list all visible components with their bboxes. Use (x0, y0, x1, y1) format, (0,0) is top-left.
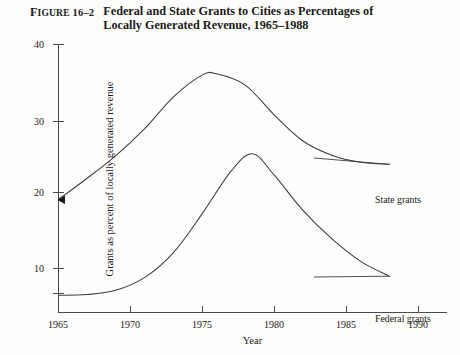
x-axis-title: Year (58, 335, 447, 346)
series-label-federal: Federal grants (375, 313, 431, 324)
state-label-leader-line (314, 158, 389, 164)
figure-number-label: FIGURE 16–2 (30, 4, 94, 20)
y-tick-label-40: 40 (34, 39, 44, 50)
federal-grants-path (58, 154, 389, 296)
figure-title-block: FIGURE 16–2 Federal and State Grants to … (30, 4, 430, 33)
federal-grants-curve (58, 154, 389, 296)
x-tick-label-1970: 1970 (120, 319, 140, 330)
plot-area: 10 20 30 40 1965 1970 1975 1980 1985 199… (58, 44, 447, 313)
figure-word-smallcaps: IGURE (38, 8, 70, 18)
figure-word-lead: F (30, 5, 38, 19)
federal-label-leader-line (314, 276, 389, 277)
x-tick-label-1980: 1980 (264, 319, 284, 330)
y-tick-label-20: 20 (34, 187, 44, 198)
x-tick-label-1985: 1985 (336, 319, 356, 330)
series-curves (58, 44, 447, 313)
page-title: Federal and State Grants to Cities as Pe… (103, 4, 403, 33)
series-label-state: State grants (375, 194, 421, 205)
x-tick-label-1965: 1965 (48, 319, 68, 330)
y-tick-label-10: 10 (34, 263, 44, 274)
figure-number: 16–2 (70, 7, 95, 18)
figure-container: FIGURE 16–2 Federal and State Grants to … (0, 0, 460, 355)
x-tick-label-1975: 1975 (192, 319, 212, 330)
y-tick-label-30: 30 (34, 116, 44, 127)
